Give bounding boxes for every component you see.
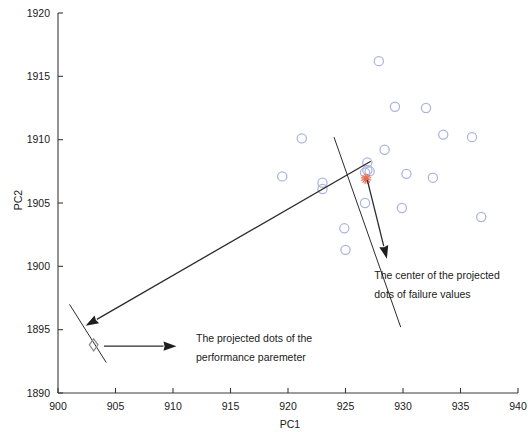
data-point-circle xyxy=(380,145,389,154)
x-tick-label: 910 xyxy=(164,400,182,412)
x-tick-label: 940 xyxy=(509,400,527,412)
scatter-plot-figure: 1890189519001905191019151920 90090591091… xyxy=(0,0,528,432)
data-point-circle xyxy=(340,224,349,233)
y-tick-label: 1920 xyxy=(27,7,51,19)
projection-axis-lower xyxy=(70,304,107,362)
failure-value-points xyxy=(278,57,486,255)
annotation-arrows xyxy=(86,161,389,351)
performance-dots-annotation-line-1: The projected dots of the xyxy=(196,332,312,344)
data-point-circle xyxy=(341,245,350,254)
arrow-to-performance-dots-shaft xyxy=(97,161,371,319)
data-point-circle xyxy=(402,169,411,178)
data-point-circle xyxy=(467,133,476,142)
y-tick-label: 1905 xyxy=(27,197,51,209)
data-point-circle xyxy=(439,130,448,139)
arrow-diamond-to-label-head xyxy=(163,342,176,351)
x-tick-label: 935 xyxy=(452,400,470,412)
x-tick-label: 905 xyxy=(107,400,125,412)
data-point-circle xyxy=(397,203,406,212)
projection-axis-lines xyxy=(70,137,401,362)
annotation-labels: The center of the projecteddots of failu… xyxy=(196,269,500,363)
data-point-circle xyxy=(390,102,399,111)
x-tick-label: 925 xyxy=(337,400,355,412)
failure-center-annotation-line-2: dots of failure values xyxy=(374,288,470,300)
arrow-to-performance-dots-head xyxy=(86,315,100,325)
projected-center-marker xyxy=(361,174,371,184)
data-point-circle xyxy=(278,172,287,181)
x-axis-title: PC1 xyxy=(280,418,301,430)
plot-canvas: 1890189519001905191019151920 90090591091… xyxy=(0,0,528,432)
y-axis-title: PC2 xyxy=(12,190,24,211)
x-tick-label: 900 xyxy=(49,400,67,412)
x-tick-label: 915 xyxy=(222,400,240,412)
y-tick-label: 1890 xyxy=(27,387,51,399)
performance-dots-annotation-line-2: performance paremeter xyxy=(196,351,306,363)
data-point-diamond xyxy=(89,339,98,351)
data-point-circle xyxy=(421,103,430,112)
y-tick-label: 1900 xyxy=(27,260,51,272)
x-tick-label: 920 xyxy=(279,400,297,412)
y-tick-label: 1915 xyxy=(27,70,51,82)
failure-center-annotation-line-1: The center of the projected xyxy=(374,269,500,281)
data-point-circle xyxy=(374,57,383,66)
arrow-to-failure-center-label-head xyxy=(379,245,388,259)
x-axis-ticks: 900905910915920925930935940 xyxy=(49,388,527,412)
data-point-circle xyxy=(428,173,437,182)
arrow-to-failure-center-label-shaft xyxy=(367,180,383,246)
x-tick-label: 930 xyxy=(394,400,412,412)
y-tick-label: 1895 xyxy=(27,323,51,335)
data-point-circle xyxy=(297,134,306,143)
data-point-circle xyxy=(360,198,369,207)
y-tick-label: 1910 xyxy=(27,133,51,145)
performance-parameter-points xyxy=(89,339,98,351)
data-point-circle xyxy=(477,212,486,221)
